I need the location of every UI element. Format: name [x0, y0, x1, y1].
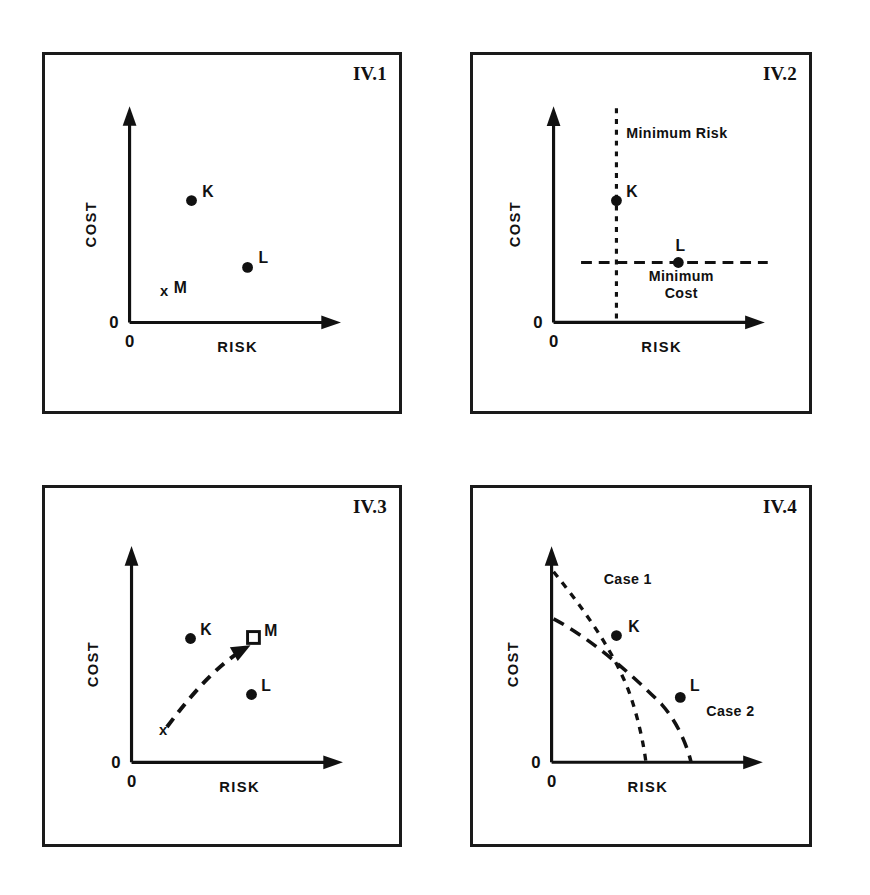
y-axis-arrowhead [125, 546, 139, 566]
x-axis-title: RISK [641, 339, 682, 355]
panel-iv3: IV.3 COST RISK 0 0 K L M x [42, 485, 402, 847]
x-axis-title: RISK [628, 779, 669, 795]
point-label-m: M [174, 279, 187, 296]
origin-label-x: 0 [127, 772, 136, 791]
figure-root: IV.1 COST RISK 0 0 K L x M IV.2 [0, 0, 870, 895]
panel-iv2: IV.2 COST RISK 0 0 Minimum Risk Minimum … [470, 52, 812, 414]
origin-label-x: 0 [125, 332, 134, 351]
x-axis-arrowhead [745, 316, 765, 330]
point-marker-l [675, 692, 686, 703]
minimum-cost-label-line1: Minimum [649, 268, 714, 284]
y-axis-title: COST [85, 641, 101, 687]
point-label-l: L [258, 249, 268, 266]
plot-iv4: COST RISK 0 0 Case 1 Case 2 K L [473, 488, 809, 844]
point-label-l: L [690, 677, 700, 694]
point-marker-k [611, 195, 622, 206]
point-label-l: L [675, 237, 685, 254]
case-2-label: Case 2 [706, 703, 754, 719]
improvement-curve [167, 653, 238, 727]
point-marker-k [186, 195, 197, 206]
plot-iv2: COST RISK 0 0 Minimum Risk Minimum Cost … [473, 55, 809, 411]
plot-iv3: COST RISK 0 0 K L M x [45, 488, 399, 844]
x-axis-arrowhead [321, 316, 341, 330]
point-label-k: K [628, 618, 640, 635]
point-marker-m [248, 632, 260, 644]
minimum-risk-label: Minimum Risk [626, 125, 727, 141]
y-axis-title: COST [507, 201, 523, 247]
panel-iv1: IV.1 COST RISK 0 0 K L x M [42, 52, 402, 414]
plot-iv1: COST RISK 0 0 K L x M [45, 55, 399, 411]
point-label-k: K [200, 621, 212, 638]
point-marker-k [611, 630, 622, 641]
y-axis-title: COST [83, 201, 99, 247]
x-axis-title: RISK [217, 339, 258, 355]
y-axis-title: COST [505, 641, 521, 687]
x-axis-title: RISK [219, 779, 260, 795]
origin-label-y: 0 [109, 313, 118, 332]
origin-label-x: 0 [547, 772, 556, 791]
curve-case-2 [554, 619, 692, 762]
point-label-l: L [261, 677, 271, 694]
y-axis-arrowhead [545, 546, 559, 566]
point-marker-m: x [160, 283, 169, 299]
point-label-k: K [626, 183, 638, 200]
y-axis-arrowhead [547, 106, 561, 126]
point-label-m: M [264, 622, 277, 639]
x-axis-arrowhead [743, 755, 763, 769]
point-label-k: K [202, 183, 214, 200]
point-marker-k [185, 633, 196, 644]
origin-label-y: 0 [533, 313, 542, 332]
point-marker-l [246, 689, 257, 700]
point-marker-start: x [159, 722, 168, 738]
panel-iv4: IV.4 COST RISK 0 0 Case 1 Case 2 K L [470, 485, 812, 847]
x-axis-arrowhead [323, 755, 343, 769]
case-1-label: Case 1 [604, 571, 652, 587]
curve-case-1 [554, 572, 646, 763]
origin-label-x: 0 [549, 332, 558, 351]
point-marker-l [673, 257, 684, 268]
origin-label-y: 0 [111, 753, 120, 772]
minimum-cost-label-line2: Cost [665, 285, 698, 301]
point-marker-l [242, 262, 253, 273]
y-axis-arrowhead [123, 106, 137, 126]
origin-label-y: 0 [531, 753, 540, 772]
